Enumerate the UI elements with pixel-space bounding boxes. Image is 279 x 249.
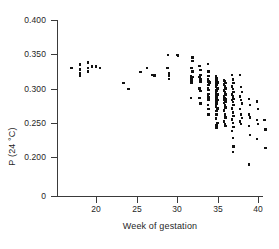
data-point bbox=[207, 87, 210, 90]
data-point bbox=[216, 99, 219, 102]
data-point bbox=[87, 61, 90, 64]
data-point bbox=[224, 97, 227, 100]
data-point bbox=[232, 101, 235, 104]
data-point bbox=[215, 79, 218, 82]
data-point bbox=[232, 78, 235, 81]
data-point bbox=[216, 81, 219, 84]
data-point bbox=[207, 63, 210, 66]
data-point bbox=[207, 75, 210, 78]
data-point bbox=[224, 116, 227, 119]
data-point bbox=[198, 65, 201, 68]
x-tick-label: 20 bbox=[84, 205, 108, 214]
data-point bbox=[191, 56, 194, 59]
data-point bbox=[87, 67, 90, 70]
data-point bbox=[257, 123, 260, 126]
data-point bbox=[208, 81, 211, 84]
y-tick-mark bbox=[51, 123, 57, 124]
data-point bbox=[91, 65, 94, 68]
data-point bbox=[231, 74, 234, 77]
data-point bbox=[231, 107, 234, 110]
data-point bbox=[207, 80, 210, 83]
data-point bbox=[199, 74, 202, 77]
data-point bbox=[215, 86, 218, 89]
data-point bbox=[248, 125, 251, 128]
data-point bbox=[231, 118, 234, 121]
data-point bbox=[215, 92, 218, 95]
data-point bbox=[232, 111, 235, 114]
data-point bbox=[215, 82, 218, 85]
x-tick-label: 25 bbox=[125, 205, 149, 214]
x-tick-label: 40 bbox=[246, 205, 270, 214]
data-point bbox=[232, 151, 235, 154]
data-point bbox=[176, 54, 179, 57]
data-point bbox=[139, 71, 142, 74]
data-point bbox=[215, 102, 218, 105]
data-point bbox=[151, 74, 154, 77]
x-tick-mark bbox=[96, 197, 97, 203]
data-point bbox=[146, 67, 149, 70]
data-point bbox=[207, 70, 210, 73]
data-point bbox=[224, 125, 227, 128]
data-point bbox=[215, 96, 218, 99]
data-point bbox=[223, 120, 226, 123]
data-point bbox=[215, 84, 218, 87]
data-point bbox=[249, 116, 252, 119]
data-point bbox=[127, 88, 130, 91]
data-point bbox=[223, 79, 226, 82]
data-point bbox=[207, 78, 210, 81]
data-point bbox=[223, 95, 226, 98]
data-point bbox=[223, 89, 226, 92]
data-point bbox=[231, 130, 234, 133]
data-point bbox=[207, 89, 210, 92]
data-point bbox=[199, 69, 202, 72]
data-point bbox=[264, 147, 267, 150]
data-point bbox=[216, 93, 219, 96]
y-tick-mark bbox=[51, 89, 57, 90]
data-point bbox=[223, 102, 226, 105]
data-point bbox=[224, 104, 227, 107]
data-point bbox=[198, 76, 201, 79]
y-tick-mark bbox=[51, 54, 57, 55]
data-point bbox=[207, 108, 210, 111]
data-point bbox=[215, 95, 218, 98]
x-tick-mark bbox=[177, 197, 178, 203]
data-point bbox=[241, 102, 244, 105]
data-point bbox=[232, 126, 235, 129]
data-point bbox=[215, 117, 218, 120]
data-point bbox=[224, 87, 227, 90]
y-axis-line bbox=[57, 20, 58, 197]
data-point bbox=[264, 128, 267, 131]
data-point bbox=[215, 124, 218, 127]
data-point bbox=[168, 78, 171, 81]
y-axis-title: P (24 °C) bbox=[8, 118, 17, 176]
data-point bbox=[207, 93, 210, 96]
data-point bbox=[122, 82, 125, 85]
data-point bbox=[215, 80, 218, 83]
y-tick-mark bbox=[51, 157, 57, 158]
data-point bbox=[224, 113, 227, 116]
data-point bbox=[190, 67, 193, 70]
data-point bbox=[257, 108, 260, 111]
data-point bbox=[191, 76, 194, 79]
data-point bbox=[232, 122, 235, 125]
data-point bbox=[215, 100, 218, 103]
data-point bbox=[215, 75, 218, 78]
data-point bbox=[215, 89, 218, 92]
data-point bbox=[232, 115, 235, 118]
data-point bbox=[87, 70, 90, 73]
data-point bbox=[199, 80, 202, 83]
data-point bbox=[232, 95, 235, 98]
data-point bbox=[216, 122, 219, 125]
x-tick-mark bbox=[258, 197, 259, 203]
data-point bbox=[248, 163, 251, 166]
data-point bbox=[224, 85, 227, 88]
data-point bbox=[232, 145, 235, 148]
data-point bbox=[216, 107, 219, 110]
y-tick-label: 0.300 bbox=[24, 85, 46, 94]
data-point bbox=[239, 108, 242, 111]
data-point bbox=[190, 97, 193, 100]
data-point bbox=[177, 54, 180, 57]
data-point bbox=[168, 72, 171, 75]
data-point bbox=[95, 65, 98, 68]
data-point bbox=[224, 99, 227, 102]
